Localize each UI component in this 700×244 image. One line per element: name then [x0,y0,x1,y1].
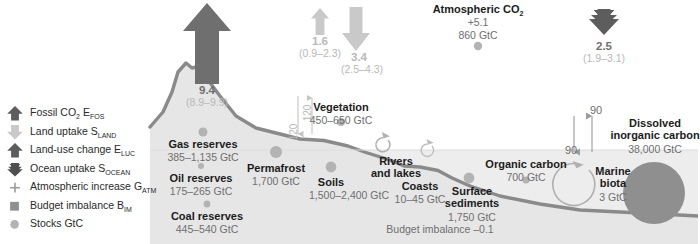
ocean-down-arrow-icon [4,160,26,179]
stock-value-permafrost: 1,700 GtC [252,176,300,188]
fossil-co2-flux-value: 9.4 [199,84,215,97]
stock-value-gas-reserves: 385–1,135 GtC [167,152,238,164]
stock-value-oil-reserves: 175–265 GtC [170,186,232,198]
legend-item-land-uptake: Land uptake SLAND [0,123,150,142]
legend-label-ocean-uptake: Ocean uptake SOCEAN [30,162,130,176]
land-uptake-flux-value: 3.4 [351,51,367,64]
legend-label-atmospheric-increase: Atmospheric increase GATM [30,180,156,194]
stock-label-gas-reserves: Gas reserves [168,138,237,150]
stock-value-coal-reserves: 445–540 GtC [176,224,238,236]
stock-value-soils: 1,500–2,400 GtC [309,190,389,202]
plus-icon [4,178,26,197]
legend-item-budget-imbalance: Budget imbalance BIM [0,197,150,216]
stock-dot-sediments [464,173,475,184]
stock-label-coal-reserves: Coal reserves [171,210,243,222]
stock-value-dissolved-inorganic-carbon: 38,000 GtC [628,144,682,156]
land-uptake-flux-range: (2.5–4.3) [341,64,383,76]
gas-exchange-flux-value-down: 90 [565,144,577,156]
ocean-uptake-arrow-icon [589,9,619,35]
legend-item-ocean-uptake: Ocean uptake SOCEAN [0,160,150,179]
legend: Fossil CO2 EFOS Land uptake SLAND Land-u… [0,104,150,234]
legend-label-stocks: Stocks GtC [30,217,83,229]
stock-label-surface-sediments: Surfacesediments [445,186,499,209]
stock-value-marine-biota: 3 GtC [599,192,626,204]
legend-item-stocks: Stocks GtC [0,215,150,234]
stock-value-surface-sediments: 1,750 GtC [448,212,496,224]
legend-item-fossil-co2: Fossil CO2 EFOS [0,104,150,123]
cycle-arrow-icon-vegetation [376,132,390,152]
land-uptake-arrow-icon [342,7,370,51]
stock-dot-gas [199,128,208,137]
down-arrow-light-icon [4,123,26,142]
up-arrow-dark-icon [4,141,26,160]
atmospheric-co2-increase: +5.1 [468,17,489,29]
fossil-co2-flux-range: (8.9–9.9) [186,97,228,109]
ocean-uptake-flux-range: (1.9–3.1) [583,53,625,65]
legend-item-atmospheric-increase: Atmospheric increase GATM [0,178,150,197]
stock-dot-permafrost [270,146,282,158]
stock-dot-oil [198,163,204,169]
stock-label-organic-carbon: Organic carbon [485,158,566,170]
stock-dot-coal [204,201,211,208]
stock-label-rivers-and-lakes: Riversand lakes [371,156,421,179]
land-use-change-arrow-icon [311,8,329,35]
stock-label-soils: Soils [318,176,344,188]
stock-label-vegetation: Vegetation [313,101,369,113]
ocean-uptake-flux-value: 2.5 [596,40,612,53]
stock-label-permafrost: Permafrost [247,162,305,174]
legend-label-land-uptake: Land uptake SLAND [30,125,116,139]
land-use-change-flux-range: (0.9–2.3) [299,48,341,60]
photosynthesis-flux-value-down: 120 [288,124,299,141]
stock-dot-soils [326,162,337,173]
legend-label-budget-imbalance: Budget imbalance BIM [30,199,132,213]
square-icon [4,197,26,216]
stock-label-oil-reserves: Oil reserves [170,172,233,184]
stock-dot-atmosphere [474,42,482,50]
circle-icon [4,215,26,234]
gas-exchange-flux-value-up: 90 [590,104,602,116]
legend-item-land-use-change: Land-use change ELUC [0,141,150,160]
stock-label-coasts: Coasts [402,180,439,192]
legend-label-fossil-co2: Fossil CO2 EFOS [30,106,104,120]
stock-value-organic-carbon: 700 GtC [506,172,545,184]
stock-dot-dissolved-inorganic-carbon [623,162,685,224]
stock-label-dissolved-inorganic-carbon: Dissolvedinorganic carbon [610,118,699,141]
budget-imbalance-note: Budget imbalance –0.1 [386,224,493,236]
stock-label-marine-biota: Marinebiota [595,166,630,189]
stock-value-vegetation: 450–650 GtC [310,115,372,127]
stock-value-coasts: 10–45 GtC [395,194,446,206]
legend-label-land-use-change: Land-use change ELUC [30,143,135,157]
up-arrow-dark-icon [4,104,26,123]
atmospheric-co2-stock: 860 GtC [458,30,497,42]
land-use-change-flux-value: 1.6 [312,35,328,48]
